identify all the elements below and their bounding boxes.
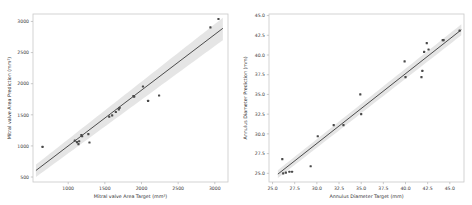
data-point	[217, 18, 219, 20]
data-point	[87, 133, 89, 135]
chart-panel-mitral-valve-area: 1000150020002500300050010001500200025003…	[0, 0, 236, 205]
y-axis-title: Mitral valve Area Prediction (mm²)	[7, 57, 12, 140]
y-tick-label: 2000	[17, 81, 29, 86]
y-tick-label: 1000	[17, 144, 29, 149]
data-point	[115, 111, 117, 113]
x-tick-label: 2500	[172, 186, 184, 191]
x-tick-label: 30.0	[312, 186, 322, 191]
data-point	[285, 171, 287, 173]
data-point	[133, 96, 135, 98]
x-tick-label: 45.0	[445, 186, 455, 191]
y-tick-label: 42.5	[255, 33, 265, 38]
plot-area-1	[278, 24, 461, 178]
y-tick-label: 30.0	[255, 132, 265, 137]
data-point	[443, 39, 445, 41]
data-point	[77, 143, 79, 145]
x-tick-label: 32.5	[334, 186, 344, 191]
y-tick-label: 37.5	[255, 72, 265, 77]
data-point	[78, 140, 80, 142]
y-tick-label: 27.5	[255, 151, 265, 156]
data-point	[81, 135, 83, 137]
y-tick-label: 35.0	[255, 92, 265, 97]
plot-area-0	[36, 18, 223, 177]
y-tick-label: 45.0	[255, 13, 265, 18]
data-point	[342, 124, 344, 126]
x-tick-label: 1500	[99, 186, 111, 191]
y-tick-label: 32.5	[255, 112, 265, 117]
x-axis-title: Mitral valve Area Target (mm²)	[94, 194, 168, 199]
data-point	[108, 116, 110, 118]
data-point	[359, 93, 361, 95]
data-point	[282, 172, 284, 174]
data-point	[158, 94, 160, 96]
x-tick-label: 37.5	[378, 186, 388, 191]
x-tick-label: 27.5	[290, 186, 300, 191]
data-point	[317, 135, 319, 137]
data-point	[458, 29, 460, 31]
chart-panel-annulus-diameter: 25.027.530.032.535.037.540.042.545.025.0…	[236, 0, 472, 205]
data-point	[209, 26, 211, 28]
y-tick-label: 40.0	[255, 53, 265, 58]
data-point	[421, 70, 423, 72]
x-tick-label: 2000	[136, 186, 148, 191]
y-axis-title: Annulus Diameter Prediction (mm)	[243, 56, 248, 139]
y-tick-label: 500	[20, 175, 29, 180]
data-point	[404, 76, 406, 78]
data-point	[291, 171, 293, 173]
data-point	[88, 141, 90, 143]
data-point	[76, 141, 78, 143]
confidence-band-1	[278, 24, 461, 178]
data-point	[420, 76, 422, 78]
data-point	[423, 51, 425, 53]
figure-container: 1000150020002500300050010001500200025003…	[0, 0, 472, 205]
data-point	[111, 114, 113, 116]
y-tick-label: 3000	[17, 19, 29, 24]
scatter-plot-mitral-valve-area: 1000150020002500300050010001500200025003…	[0, 0, 236, 205]
data-point	[426, 42, 428, 44]
confidence-band-0	[36, 18, 223, 177]
data-point	[333, 124, 335, 126]
data-point	[41, 146, 43, 148]
x-tick-label: 25.0	[267, 186, 277, 191]
y-tick-label: 1500	[17, 113, 29, 118]
x-tick-label: 42.5	[423, 186, 433, 191]
x-tick-label: 40.0	[400, 186, 410, 191]
data-point	[142, 85, 144, 87]
x-tick-label: 3000	[209, 186, 221, 191]
data-point	[281, 158, 283, 160]
data-point	[404, 60, 406, 62]
scatter-plot-annulus-diameter: 25.027.530.032.535.037.540.042.545.025.0…	[236, 0, 472, 205]
data-point	[118, 107, 120, 109]
data-point	[74, 140, 76, 142]
data-point	[310, 165, 312, 167]
data-point	[288, 171, 290, 173]
data-point	[147, 100, 149, 102]
x-tick-label: 1000	[62, 186, 74, 191]
y-tick-label: 2500	[17, 50, 29, 55]
x-tick-label: 35.0	[356, 186, 366, 191]
regression-line-0	[36, 28, 223, 170]
regression-line-1	[278, 30, 461, 174]
y-tick-label: 25.0	[255, 171, 265, 176]
data-point	[360, 113, 362, 115]
data-point	[427, 48, 429, 50]
x-axis-title: Annulus Diameter Target (mm)	[329, 194, 403, 199]
